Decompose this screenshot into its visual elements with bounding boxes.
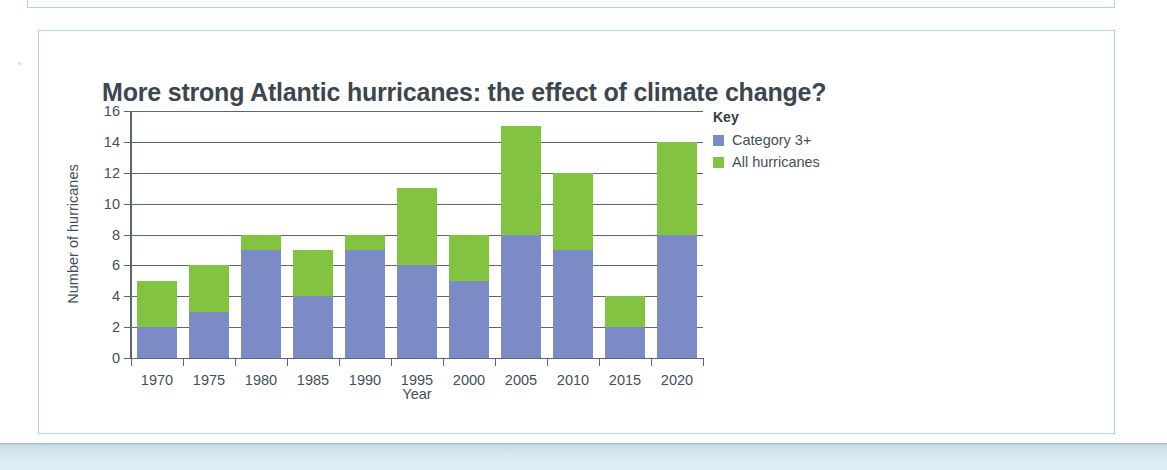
- x-axis-tick: [131, 358, 132, 366]
- x-axis-label: Year: [131, 386, 703, 402]
- x-axis-tick: [287, 358, 288, 366]
- bar-1985: [293, 250, 334, 358]
- bar-segment-category-3-plus: [345, 250, 386, 358]
- x-axis-tick: [443, 358, 444, 366]
- legend-label-all-hurricanes: All hurricanes: [732, 154, 820, 170]
- bar-segment-category-3-plus: [605, 327, 646, 358]
- y-axis-label: Number of hurricanes: [65, 164, 81, 303]
- page-root: More strong Atlantic hurricanes: the eff…: [0, 0, 1167, 470]
- bar-1975: [189, 265, 230, 358]
- chart-figure: 0246810121416197019751980198519901995200…: [39, 31, 1116, 435]
- y-axis-tick-label: 8: [112, 227, 120, 243]
- legend-swatch-icon-all-hurricanes: [713, 157, 724, 168]
- bar-1995: [397, 188, 438, 358]
- gridline: [131, 173, 703, 174]
- bar-segment-category-3-plus: [553, 250, 594, 358]
- y-axis-tick-label: 12: [104, 165, 120, 181]
- partial-panel-above: [27, 0, 1115, 8]
- y-axis-tick: [124, 142, 131, 143]
- bar-segment-category-3-plus: [397, 265, 438, 358]
- bar-segment-category-3-plus: [657, 235, 698, 359]
- y-axis-tick-label: 6: [112, 257, 120, 273]
- x-axis-tick: [235, 358, 236, 366]
- y-axis-tick-label: 14: [104, 134, 120, 150]
- y-axis-tick: [124, 204, 131, 205]
- bar-segment-category-3-plus: [241, 250, 282, 358]
- y-axis-tick-label: 16: [104, 103, 120, 119]
- bar-2005: [501, 126, 542, 358]
- y-axis-tick: [124, 173, 131, 174]
- bar-segment-category-3-plus: [189, 312, 230, 358]
- bar-segment-category-3-plus: [501, 235, 542, 359]
- bar-segment-category-3-plus: [137, 327, 178, 358]
- chart-panel: More strong Atlantic hurricanes: the eff…: [38, 30, 1115, 434]
- bar-segment-category-3-plus: [293, 296, 334, 358]
- legend-item-category-3-plus: Category 3+: [713, 132, 913, 148]
- bar-segment-category-3-plus: [449, 281, 490, 358]
- bottom-decorative-band: [0, 443, 1167, 470]
- x-axis-tick: [495, 358, 496, 366]
- legend-item-all-hurricanes: All hurricanes: [713, 154, 913, 170]
- y-axis-tick-label: 4: [112, 288, 120, 304]
- y-axis-tick: [124, 358, 131, 359]
- bar-2010: [553, 173, 594, 358]
- x-axis-tick: [183, 358, 184, 366]
- legend-label-category-3-plus: Category 3+: [732, 132, 811, 148]
- x-axis-tick: [703, 358, 704, 366]
- bar-1990: [345, 235, 386, 359]
- y-axis-tick: [124, 296, 131, 297]
- legend-title: Key: [713, 109, 913, 125]
- bar-1970: [137, 281, 178, 358]
- bar-2020: [657, 142, 698, 358]
- chart-legend: Key Category 3+ All hurricanes: [713, 109, 913, 176]
- x-axis-tick: [391, 358, 392, 366]
- x-axis-tick: [651, 358, 652, 366]
- bottom-band-rule: [0, 443, 1167, 445]
- bar-2000: [449, 235, 490, 359]
- x-axis-tick: [547, 358, 548, 366]
- bar-2015: [605, 296, 646, 358]
- y-axis-tick: [124, 327, 131, 328]
- x-axis-tick: [599, 358, 600, 366]
- y-axis-tick: [124, 111, 131, 112]
- y-axis-tick: [124, 235, 131, 236]
- x-axis-tick: [339, 358, 340, 366]
- gridline: [131, 142, 703, 143]
- y-axis-tick-label: 0: [112, 350, 120, 366]
- y-axis-tick: [124, 265, 131, 266]
- gridline: [131, 111, 703, 112]
- y-axis-tick-label: 2: [112, 319, 120, 335]
- legend-swatch-icon-category-3-plus: [713, 135, 724, 146]
- plot-area: 0246810121416197019751980198519901995200…: [131, 111, 703, 358]
- bar-1980: [241, 235, 282, 359]
- y-axis-tick-label: 10: [104, 196, 120, 212]
- page-speck: [18, 62, 21, 65]
